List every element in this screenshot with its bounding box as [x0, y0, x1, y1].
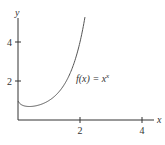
y-tick-label: 4 [7, 37, 12, 48]
x-tick-label: 4 [140, 125, 145, 136]
function-annotation: f(x) = xx [76, 72, 110, 85]
annotation-func-text: f(x) = x [76, 73, 107, 85]
x-tick-label: 2 [78, 125, 83, 136]
series-line-f [18, 17, 85, 106]
x-axis-label: x [156, 114, 162, 125]
ticks: 2424 [7, 37, 145, 137]
y-axis-label: y [14, 7, 20, 18]
chart: x y 2424 f(x) = xx [0, 0, 165, 145]
y-tick-label: 2 [7, 76, 12, 87]
annotation-exponent: x [105, 72, 110, 80]
